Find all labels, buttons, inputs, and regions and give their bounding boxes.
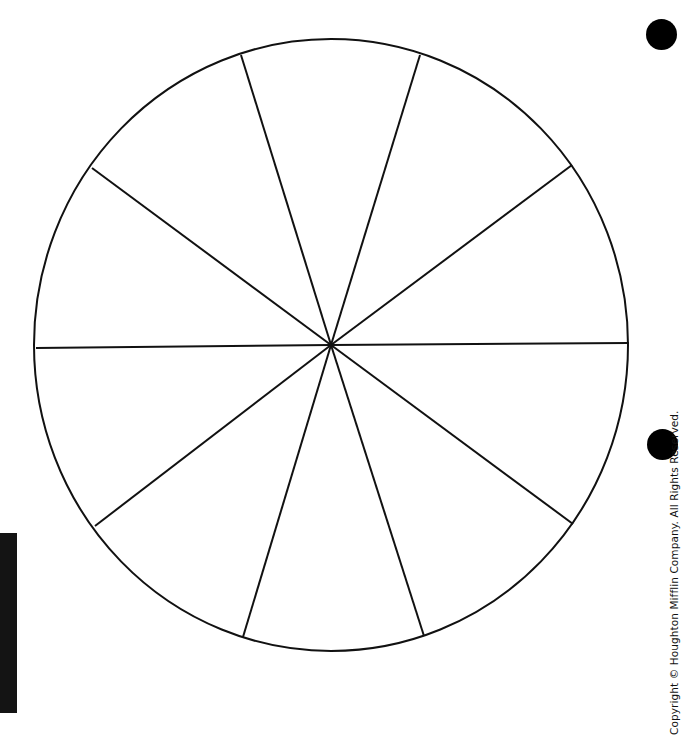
wheel-spoke	[95, 345, 331, 526]
wheel-spokes	[36, 55, 629, 637]
wheel-spoke	[331, 165, 572, 345]
wheel-spoke	[36, 345, 331, 348]
wheel-spoke	[331, 345, 573, 524]
punch-hole-top	[646, 19, 677, 50]
wheel-spoke	[331, 343, 629, 345]
wheel-spoke	[243, 345, 331, 637]
wheel-spoke	[331, 345, 424, 636]
edge-bar	[0, 533, 17, 713]
pie-wheel-diagram	[0, 0, 688, 740]
wheel-spoke	[92, 168, 331, 345]
wheel-spoke	[331, 55, 420, 345]
wheel-spoke	[241, 55, 331, 345]
copyright-text: Copyright © Houghton Mifflin Company. Al…	[668, 411, 680, 735]
